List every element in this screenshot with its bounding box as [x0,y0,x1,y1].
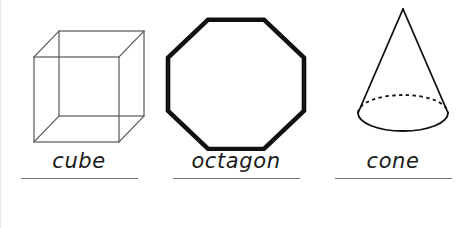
octagon-label-group: octagon [158,148,314,179]
shapes-worksheet: cube octagon [0,0,470,228]
cone-figure [315,0,470,152]
octagon-answer-rule [173,178,300,179]
octagon-outline-icon [158,0,314,152]
cube-figure [1,0,157,152]
cube-answer-rule [21,178,138,179]
cone-hidden-base-edge [358,95,448,113]
shape-cell-octagon: octagon [158,0,314,228]
shape-label-octagon: octagon [158,148,314,174]
cone-solid-icon [315,0,470,152]
cube-label-group: cube [1,148,157,179]
cone-answer-rule [335,178,452,179]
shape-label-cone: cone [315,148,470,174]
shape-cell-cube: cube [1,0,157,228]
cube-wireframe-icon [1,0,157,152]
cone-label-group: cone [315,148,470,179]
octagon-figure [158,0,314,152]
shape-cell-cone: cone [315,0,470,228]
shape-label-cube: cube [1,148,157,174]
